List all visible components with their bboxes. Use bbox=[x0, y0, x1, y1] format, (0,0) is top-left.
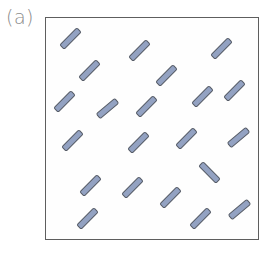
container-box bbox=[45, 17, 259, 240]
panel-label: (a) bbox=[6, 6, 34, 28]
